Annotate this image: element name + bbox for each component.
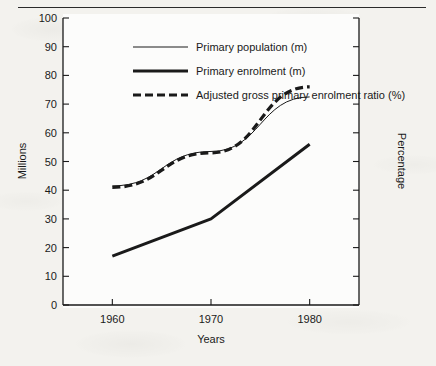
legend-label-1: Primary population (m) [196, 41, 307, 53]
x-tick-label: 1970 [199, 313, 223, 325]
y-tick-label: 60 [45, 127, 57, 139]
x-axis-ticks: 196019701980 [100, 299, 322, 325]
series-line-2 [112, 144, 309, 256]
chart-legend: Primary population (m)Primary enrolment … [133, 41, 405, 101]
y-tick-label: 40 [45, 184, 57, 196]
y-axis-left-ticks: 0102030405060708090100 [39, 12, 69, 311]
series-line-1 [112, 97, 309, 186]
y-tick-label: 100 [39, 12, 57, 24]
x-axis-title: Years [197, 333, 225, 345]
chart-page: 0102030405060708090100 196019701980 Mill… [0, 0, 436, 366]
y-axis-right-title: Percentage [396, 133, 408, 189]
y-axis-right-ticks [353, 18, 359, 305]
y-tick-label: 50 [45, 156, 57, 168]
x-tick-label: 1960 [100, 313, 124, 325]
series-line-3 [112, 87, 309, 187]
x-tick-label: 1980 [297, 313, 321, 325]
data-series-layer [112, 87, 309, 256]
axis-lines [63, 18, 359, 305]
y-tick-label: 10 [45, 270, 57, 282]
y-axis-left-title: Millions [16, 142, 28, 179]
y-tick-label: 20 [45, 242, 57, 254]
line-chart: 0102030405060708090100 196019701980 Mill… [0, 0, 436, 366]
y-tick-label: 90 [45, 41, 57, 53]
legend-label-3: Adjusted gross primary enrolment ratio (… [196, 89, 405, 101]
y-tick-label: 0 [51, 299, 57, 311]
y-tick-label: 30 [45, 213, 57, 225]
legend-label-2: Primary enrolment (m) [196, 65, 305, 77]
y-tick-label: 70 [45, 98, 57, 110]
y-tick-label: 80 [45, 69, 57, 81]
